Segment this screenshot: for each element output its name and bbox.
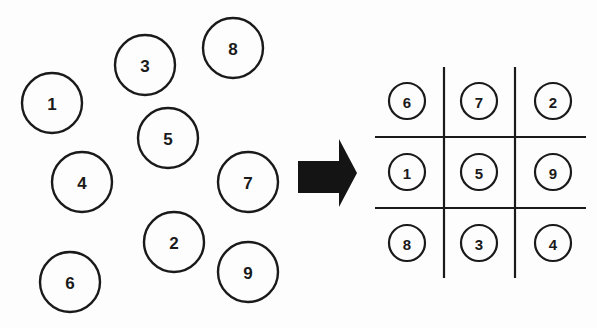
diagram-canvas: 138547296 672159834 bbox=[0, 0, 597, 328]
circle-number: 3 bbox=[140, 57, 149, 76]
right-arrow-icon bbox=[298, 139, 357, 207]
scattered-circle-3: 3 bbox=[115, 35, 175, 95]
grid-circles: 672159834 bbox=[389, 83, 571, 261]
grid-cell-6: 6 bbox=[389, 83, 425, 119]
circle-number: 3 bbox=[475, 236, 483, 253]
circle-number: 1 bbox=[47, 95, 56, 114]
circle-number: 2 bbox=[549, 94, 557, 111]
scattered-circle-9: 9 bbox=[218, 242, 278, 302]
scattered-circles: 138547296 bbox=[22, 18, 278, 312]
circle-number: 7 bbox=[475, 94, 483, 111]
circle-number: 9 bbox=[243, 264, 252, 283]
grid-cell-1: 1 bbox=[389, 154, 425, 190]
scattered-circle-8: 8 bbox=[203, 18, 263, 78]
circle-number: 6 bbox=[65, 274, 74, 293]
scattered-circle-4: 4 bbox=[52, 152, 112, 212]
circle-number: 4 bbox=[77, 174, 87, 193]
scattered-circle-6: 6 bbox=[40, 252, 100, 312]
circle-number: 9 bbox=[549, 165, 557, 182]
scattered-circle-1: 1 bbox=[22, 73, 82, 133]
circle-number: 7 bbox=[243, 174, 252, 193]
grid-cell-8: 8 bbox=[389, 225, 425, 261]
scattered-circle-5: 5 bbox=[138, 108, 198, 168]
circle-number: 8 bbox=[228, 40, 237, 59]
scattered-circle-7: 7 bbox=[218, 152, 278, 212]
circle-number: 5 bbox=[163, 130, 172, 149]
circle-number: 4 bbox=[549, 236, 558, 253]
circle-number: 1 bbox=[403, 165, 411, 182]
grid-cell-5: 5 bbox=[461, 154, 497, 190]
grid-cell-4: 4 bbox=[535, 225, 571, 261]
grid-cell-7: 7 bbox=[461, 83, 497, 119]
grid-cell-2: 2 bbox=[535, 83, 571, 119]
diagram-svg: 138547296 672159834 bbox=[0, 0, 597, 328]
scattered-circle-2: 2 bbox=[144, 212, 204, 272]
circle-number: 2 bbox=[169, 234, 178, 253]
circle-number: 8 bbox=[403, 236, 411, 253]
circle-number: 6 bbox=[403, 94, 411, 111]
grid-cell-9: 9 bbox=[535, 154, 571, 190]
circle-number: 5 bbox=[475, 165, 483, 182]
grid-cell-3: 3 bbox=[461, 225, 497, 261]
